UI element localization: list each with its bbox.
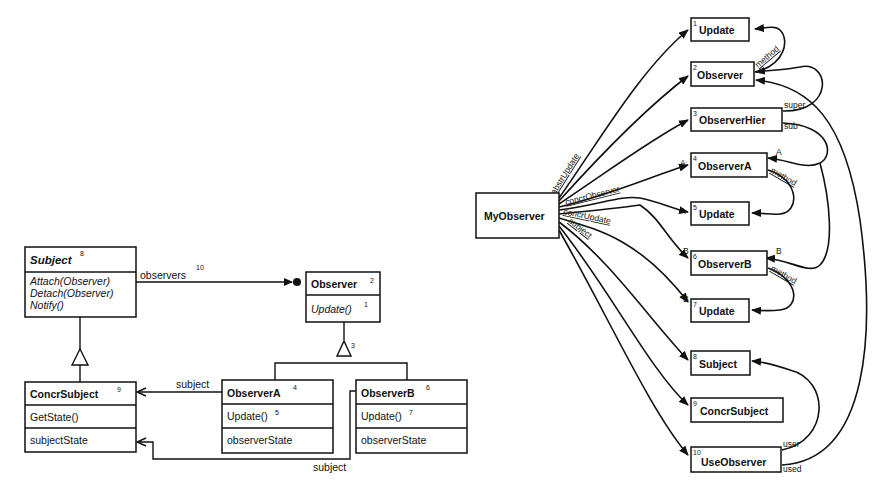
method-getstate: GetState() (30, 411, 78, 423)
node-label: Update (699, 305, 735, 317)
edge-label-b-in: B (683, 294, 689, 304)
association-label: subject (176, 378, 209, 390)
class-number: 9 (117, 386, 121, 393)
association-label: observers (140, 269, 186, 281)
edge-label-method: method (753, 43, 781, 69)
diagram-canvas: Subject 8 Attach(Observer) Detach(Observ… (0, 0, 892, 493)
node-myobserver[interactable]: MyObserver (476, 193, 559, 238)
association-number: 10 (196, 264, 204, 271)
role-graph: abstrUpdate concrObserver concrUpdate su… (476, 18, 867, 474)
method-number: 1 (364, 301, 368, 308)
edge-label-b-in: B (683, 246, 689, 256)
node-label: Update (699, 208, 735, 220)
edge-label-method-b: method (769, 263, 799, 286)
class-observer[interactable]: Observer 2 Update() 1 (306, 272, 380, 322)
node-label: MyObserver (484, 210, 545, 222)
method-notify: Notify() (30, 299, 64, 311)
node-number: 10 (693, 449, 701, 456)
class-number: 6 (426, 384, 430, 391)
node-number: 8 (693, 353, 697, 360)
node-number: 4 (693, 155, 697, 162)
class-concr-subject[interactable]: ConcrSubject 9 GetState() subjectState (25, 382, 136, 452)
generalization-number: 3 (351, 342, 355, 349)
class-name: ConcrSubject (30, 388, 99, 400)
edge-label-a: A (776, 147, 782, 157)
class-name: ObserverA (227, 387, 281, 399)
association-observers: observers 10 (136, 264, 301, 286)
class-number: 2 (370, 277, 374, 284)
node-6-observerb[interactable]: 6 ObserverB B (683, 246, 767, 275)
generalization-subject (72, 317, 88, 382)
attribute-subjectstate: subjectState (30, 434, 88, 446)
node-label: ObserverHier (699, 114, 766, 126)
method-number: 5 (275, 409, 279, 416)
node-label: ConcrSubject (700, 405, 769, 417)
method-detach: Detach(Observer) (30, 287, 113, 299)
method-number: 7 (409, 409, 413, 416)
uml-class-diagram: Subject 8 Attach(Observer) Detach(Observ… (25, 247, 467, 473)
class-name: ObserverB (361, 387, 415, 399)
node-5-update[interactable]: 5 Update A (680, 202, 749, 225)
class-number: 8 (80, 250, 84, 257)
edge-label-a-in: A (680, 158, 686, 168)
node-1-update[interactable]: 1 Update (691, 18, 749, 41)
node-number: 7 (693, 301, 697, 308)
method-update: Update() (227, 410, 268, 422)
edge-label-method-a: method (769, 165, 799, 188)
method-update: Update() (361, 410, 402, 422)
attribute-observerstate: observerState (227, 434, 293, 446)
node-number: 9 (693, 400, 697, 407)
fan-edges (559, 30, 688, 455)
association-label: subject (313, 461, 346, 473)
method-attach: Attach(Observer) (29, 275, 110, 287)
class-subject[interactable]: Subject 8 Attach(Observer) Detach(Observ… (25, 247, 136, 317)
class-name: Observer (311, 278, 357, 290)
node-9-concrsubject[interactable]: 9 ConcrSubject (691, 398, 783, 422)
node-number: 6 (693, 253, 697, 260)
node-label: Update (699, 24, 735, 36)
node-label: Observer (697, 69, 743, 81)
node-label: Subject (699, 358, 737, 370)
edge-label-sub: sub (784, 121, 798, 131)
class-name: Subject (30, 254, 73, 266)
method-update: Update() (311, 303, 352, 315)
node-2-observer[interactable]: 2 Observer (691, 62, 754, 86)
edge-label-b: B (776, 246, 782, 256)
class-observer-b[interactable]: ObserverB 6 Update() 7 observerState (356, 380, 467, 453)
node-label: UseObserver (701, 456, 766, 468)
generalization-observer: 3 (275, 322, 407, 380)
node-7-update[interactable]: 7 Update B (683, 294, 749, 322)
node-number: 1 (693, 20, 697, 27)
node-8-subject[interactable]: 8 Subject (691, 351, 750, 375)
node-4-observera[interactable]: 4 ObserverA A (680, 153, 767, 177)
association-subject-a: subject (137, 378, 222, 396)
node-3-observerhier[interactable]: 3 ObserverHier (691, 108, 782, 131)
node-number: 3 (693, 110, 697, 117)
edge-label-used: used (783, 464, 802, 474)
attribute-observerstate: observerState (361, 434, 427, 446)
edge-label-user: user (783, 439, 800, 449)
node-label: ObserverB (698, 258, 752, 270)
edge-label-super: super (784, 100, 805, 110)
edge-label-a-in: A (680, 206, 686, 216)
node-label: ObserverA (698, 160, 752, 172)
class-observer-a[interactable]: ObserverA 4 Update() 5 observerState (222, 380, 333, 453)
node-number: 5 (693, 204, 697, 211)
node-10-useobserver[interactable]: 10 UseObserver (691, 447, 781, 472)
class-number: 4 (293, 384, 297, 391)
